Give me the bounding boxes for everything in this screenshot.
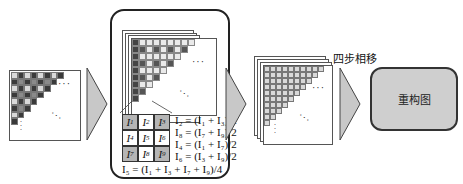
pixel-cell: [24, 105, 31, 112]
pixel-cell: [18, 85, 25, 92]
ellipsis-diagonal: ···: [48, 108, 64, 124]
grid-cell-i9: I9: [154, 146, 170, 162]
arrow-right-icon: [339, 67, 361, 141]
pixel-cell: [11, 105, 18, 112]
pixel-cell: [11, 118, 18, 125]
pixel-cell: [288, 96, 294, 102]
ellipsis-vertical: ...: [20, 118, 23, 130]
grid-cell-i2: I2: [138, 114, 154, 130]
pixel-cell: [31, 79, 38, 86]
input-image: ··· ··· ...: [9, 70, 81, 141]
arrow-right-icon: [225, 67, 247, 141]
pixel-cell: [37, 72, 44, 79]
pixel-cell: [300, 84, 306, 90]
pixel-cell: [18, 72, 25, 79]
pixel-cell: [51, 72, 58, 79]
pixel-cell: [11, 72, 18, 79]
pixel-cell: [31, 85, 38, 92]
interpolation-panel: ··· ··· I1I2I3I4I5I6I7I8I9 I₂ = (I₁ + I₃…: [110, 9, 230, 179]
pixel-cell: [31, 98, 38, 105]
pixel-cell: [37, 79, 44, 86]
formula-i6: I₆ = (I₃ + I₉)/2: [175, 151, 237, 162]
reconstructed-image-box: 重构图: [370, 67, 458, 131]
pixel-cell: [11, 98, 18, 105]
grid-cell-i6: I6: [154, 130, 170, 146]
pixel-cell: [18, 105, 25, 112]
arrow-right-icon: [86, 67, 108, 141]
ellipsis-diagonal: ···: [296, 110, 312, 126]
pixel-cell: [37, 92, 44, 99]
pixel-cell: [276, 108, 282, 114]
pixel-cell: [24, 72, 31, 79]
pixel-cell: [264, 120, 270, 126]
pixel-cell: [18, 79, 25, 86]
pixel-cell: [11, 92, 18, 99]
pixel-cell: [282, 102, 288, 108]
pixel-cell: [312, 72, 318, 78]
grid-cell-i7: I7: [122, 146, 138, 162]
ellipsis-vertical: ...: [274, 121, 277, 133]
pixel-cell: [318, 66, 324, 72]
grid-cell-i8: I8: [138, 146, 154, 162]
pixel-cell: [11, 112, 18, 119]
step-label: 四步相移: [333, 50, 377, 66]
ellipsis-horizontal: ···: [58, 79, 71, 89]
pixel-cell: [44, 85, 51, 92]
pixel-cell: [44, 79, 51, 86]
grid-cell-i5: I5: [138, 130, 154, 146]
grid-cell-i1: I1: [122, 114, 138, 130]
pixel-cell: [11, 85, 18, 92]
pixel-cell: [24, 92, 31, 99]
ellipsis-horizontal: ···: [312, 83, 325, 93]
final-interpolated-sheet: ··· ··· ...: [263, 65, 333, 145]
pixel-cell: [31, 92, 38, 99]
pixel-cell: [44, 72, 51, 79]
pixel-cell: [24, 79, 31, 86]
pixel-cell: [18, 92, 25, 99]
pixel-cell: [31, 72, 38, 79]
grid-cell-i4: I4: [122, 130, 138, 146]
pixel-cell: [294, 90, 300, 96]
result-label: 重构图: [398, 91, 431, 107]
zoom-connector-lines: [112, 11, 232, 121]
pixel-cell: [11, 79, 18, 86]
grid-cell-i3: I3: [154, 114, 170, 130]
pixel-cell: [18, 98, 25, 105]
3x3-pixel-grid: I1I2I3I4I5I6I7I8I9: [122, 114, 170, 162]
formula-i5: I₅ = (I₁ + I₃ + I₇ + I₉)/4: [122, 164, 222, 175]
pixel-cell: [24, 98, 31, 105]
pixel-cell: [37, 85, 44, 92]
pixel-cell: [24, 85, 31, 92]
pixel-cell: [51, 79, 58, 86]
